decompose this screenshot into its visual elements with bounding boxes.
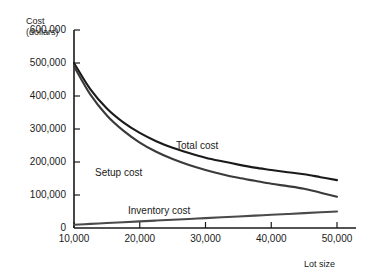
x-axis-tick-label: 40,000 — [243, 233, 299, 245]
x-axis-tick-label: 30,000 — [178, 233, 234, 245]
x-axis-title: Lot size — [304, 259, 335, 270]
x-axis-tick-label: 20,000 — [112, 233, 168, 245]
cost-vs-lot-size-chart: Cost (dollars) Lot size 0100,000200,0003… — [0, 0, 370, 278]
x-axis-tick-label: 10,000 — [46, 233, 102, 245]
x-axis-tick-label: 50,000 — [309, 233, 365, 245]
y-axis-tick-label: 500,000 — [8, 57, 66, 69]
series-label-total-cost: Total cost — [176, 140, 218, 152]
series-label-inventory-cost: Inventory cost — [128, 205, 190, 217]
y-axis-tick-label: 100,000 — [8, 189, 66, 201]
series-label-setup-cost: Setup cost — [95, 167, 142, 179]
y-axis-tick-label: 600,000 — [8, 24, 66, 36]
y-axis-tick-label: 200,000 — [8, 156, 66, 168]
y-axis-tick-label: 300,000 — [8, 123, 66, 135]
y-axis-tick-label: 400,000 — [8, 90, 66, 102]
